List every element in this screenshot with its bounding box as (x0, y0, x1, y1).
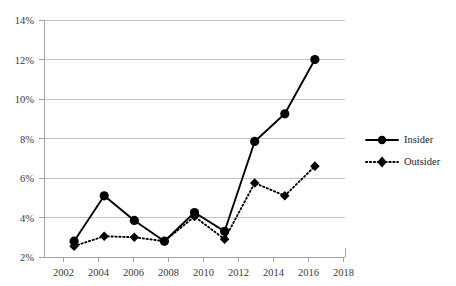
y-tick-label: 14% (15, 15, 35, 26)
data-point-outsider-2018[interactable] (310, 161, 320, 171)
y-tick-label: 12% (15, 55, 35, 66)
data-point-insider-2016[interactable] (280, 109, 289, 118)
y-axis-tick-labels: 14% 12% 10% 8% 6% 4% 2% (15, 15, 35, 263)
x-tick-label: 2002 (53, 267, 74, 278)
x-tick-label: 2016 (298, 267, 319, 278)
x-tick-label: 2012 (228, 267, 249, 278)
data-point-insider-2002[interactable] (70, 237, 79, 246)
y-tick-label: 10% (15, 94, 35, 105)
data-point-insider-2014[interactable] (250, 137, 259, 146)
y-tick-label: 4% (20, 213, 34, 224)
y-tick-label: 6% (20, 173, 34, 184)
data-point-insider-2004[interactable] (100, 191, 109, 200)
data-point-insider-2018[interactable] (310, 55, 319, 64)
chart-page: 14% 12% 10% 8% 6% 4% 2% 2002 2004 2006 2… (0, 0, 456, 286)
legend: Insider Outsider (366, 134, 441, 167)
x-tick-label: 2010 (193, 267, 214, 278)
data-point-insider-2008[interactable] (160, 237, 169, 246)
gridlines (44, 20, 345, 218)
x-axis-tick-labels: 2002 2004 2006 2008 2010 2012 2014 2016 … (53, 267, 354, 278)
y-tick-label: 2% (20, 252, 34, 263)
data-point-outsider-2006[interactable] (130, 232, 140, 242)
x-tick-label: 2006 (123, 267, 144, 278)
x-tick-label: 2018 (333, 267, 354, 278)
series-outsider-markers (69, 161, 319, 251)
x-tick-label: 2004 (88, 267, 110, 278)
data-point-insider-2012[interactable] (220, 227, 229, 236)
x-tick-label: 2014 (263, 267, 285, 278)
line-chart: 14% 12% 10% 8% 6% 4% 2% 2002 2004 2006 2… (0, 0, 456, 286)
data-point-insider-2010[interactable] (190, 208, 199, 217)
legend-outsider-diamond-icon (377, 157, 387, 168)
y-tick-label: 8% (20, 134, 34, 145)
legend-label-insider[interactable]: Insider (404, 134, 434, 145)
x-tick-label: 2008 (158, 267, 179, 278)
data-point-outsider-2004[interactable] (99, 231, 109, 241)
series-outsider (69, 161, 319, 251)
data-point-outsider-2014[interactable] (250, 178, 260, 188)
data-point-insider-2006[interactable] (130, 216, 139, 225)
legend-insider-circle-icon (378, 136, 386, 144)
legend-label-outsider[interactable]: Outsider (404, 156, 441, 167)
